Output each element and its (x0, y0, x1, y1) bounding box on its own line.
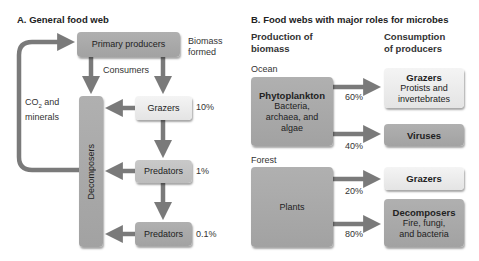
plants-box: Plants (251, 167, 333, 247)
predators-1-percent: 1% (196, 166, 209, 177)
forest-grazers-box: Grazers (384, 167, 464, 190)
ocean-grazers-percent: 60% (345, 92, 363, 103)
consumers-label: Consumers (103, 65, 149, 76)
ocean-viruses-percent: 40% (345, 141, 363, 152)
phytoplankton-box: Phytoplankton Bacteria, archaea, and alg… (251, 77, 333, 146)
decomposers-label: Decomposers (86, 144, 97, 200)
forest-grazers-percent: 20% (345, 186, 363, 197)
ocean-grazers-box: Grazers Protists and invertebrates (384, 68, 464, 108)
grazers-percent: 10% (196, 102, 214, 113)
predators-box-2: Predators (135, 222, 192, 246)
predators-2-percent: 0.1% (196, 229, 217, 240)
predators-box-1: Predators (135, 160, 192, 183)
primary-producers-label: Primary producers (92, 39, 166, 50)
panel-a-title: A. General food web (17, 14, 109, 25)
production-header: Production of biomass (251, 31, 313, 55)
consumption-header: Consumption of producers (384, 31, 445, 55)
panel-b-title: B. Food webs with major roles for microb… (251, 14, 448, 25)
forest-decomposers-box: Decomposers Fire, fungi, and bacteria (384, 199, 464, 247)
viruses-box: Viruses (384, 124, 464, 146)
forest-label: Forest (251, 155, 277, 166)
grazers-box: Grazers (135, 96, 192, 120)
co2-minerals-label: CO2 and minerals (25, 97, 59, 123)
biomass-formed-label: Biomass formed (188, 36, 223, 58)
ocean-label: Ocean (251, 64, 278, 75)
primary-producers-box: Primary producers (77, 32, 180, 57)
forest-decomposers-percent: 80% (345, 229, 363, 240)
decomposers-bar: Decomposers (79, 96, 103, 247)
